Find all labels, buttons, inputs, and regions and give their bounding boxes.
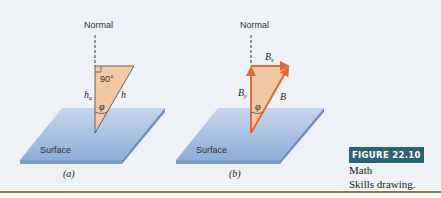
sublabel-b: (b) <box>229 168 241 180</box>
panel-b: Normal φ Bx By B Surface (b) <box>176 20 324 180</box>
normal-label-b: Normal <box>240 20 269 30</box>
h-label: h <box>121 89 126 100</box>
caption-line2: Skills drawing. <box>349 178 416 190</box>
figure-number-badge: FIGURE 22.10 <box>349 147 424 163</box>
surface-label-b: Surface <box>196 145 227 155</box>
surface-plane-a <box>20 108 165 164</box>
bottom-rule <box>0 191 441 193</box>
caption-line1: Math <box>349 164 372 176</box>
phi-label-a: φ <box>99 101 105 112</box>
figure-caption: FIGURE 22.10 Math Skills drawing. <box>349 147 441 191</box>
surface-label-a: Surface <box>40 145 71 155</box>
phi-label-b: φ <box>255 101 261 112</box>
angle-90-label: 90° <box>100 74 114 84</box>
sublabel-a: (a) <box>63 168 75 180</box>
normal-label-a: Normal <box>84 20 113 30</box>
b-label: B <box>280 91 286 102</box>
ha-label: ha <box>84 89 92 101</box>
by-label: By <box>238 87 247 99</box>
bx-label: Bx <box>265 51 274 63</box>
panel-a: Normal 90° φ ha h Surface (a) <box>20 20 165 180</box>
